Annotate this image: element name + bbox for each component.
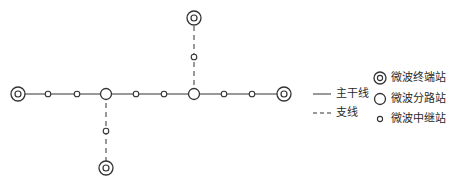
repeater-station-icon [221,91,227,97]
terminal-station-icon [277,87,291,101]
legend-branch-line-label: 支线 [336,107,358,119]
legend-branch-station-label: 微波分路站 [391,93,446,105]
legend-main-line-label: 主干线 [336,88,369,100]
legend-terminal-icon [374,72,386,84]
legend-repeater-icon [377,116,382,121]
repeater-station-icon [249,91,255,97]
terminal-station-icon [99,161,113,175]
legend-repeater-label: 微波中继站 [391,113,446,125]
repeater-station-icon [191,54,197,60]
repeater-station-icon [74,91,80,97]
legend-terminal-label: 微波终端站 [391,72,446,84]
repeater-station-icon [133,91,139,97]
terminal-station-icon [11,87,25,101]
repeater-station-icon [103,128,109,134]
branch-station-icon [101,89,112,100]
branch-station-icon [189,89,200,100]
repeater-station-icon [161,91,167,97]
legend-branch-icon [375,94,386,105]
terminal-station-icon [187,11,201,25]
network-diagram [0,0,452,185]
repeater-station-icon [45,91,51,97]
